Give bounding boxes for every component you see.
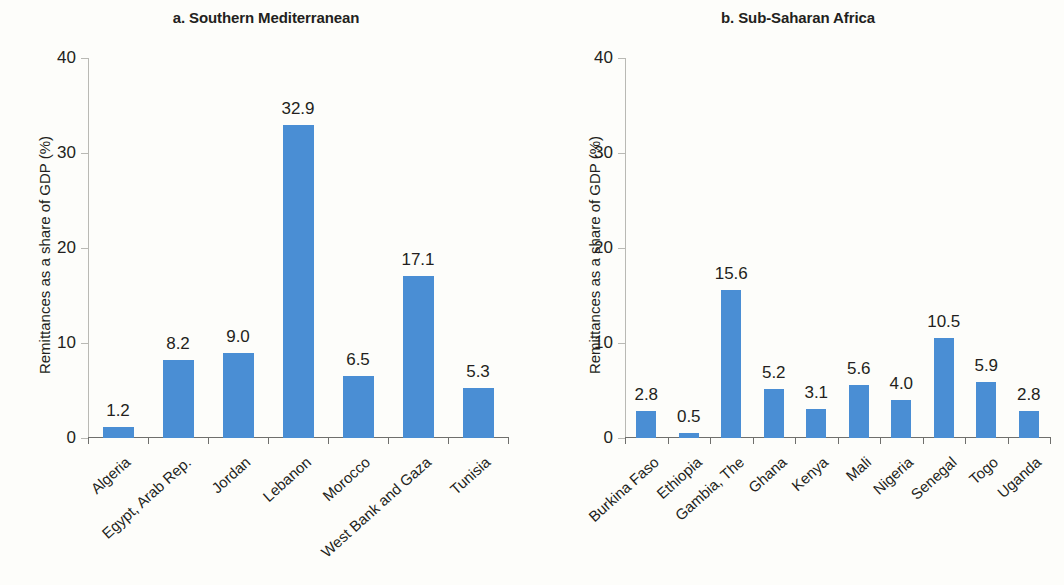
chart-panel-southern-mediterranean: a. Southern Mediterranean Remittances as… [0, 0, 532, 585]
x-axis-tick [208, 438, 209, 444]
x-axis-tick [880, 438, 881, 444]
y-axis-tick [618, 343, 625, 344]
x-axis-tick [328, 438, 329, 444]
x-axis-tick [148, 438, 149, 444]
bar[interactable] [283, 125, 314, 438]
bar-value-label: 9.0 [226, 327, 250, 347]
y-axis-tick [618, 438, 625, 439]
x-axis-category-label: Morocco [320, 454, 373, 504]
bar-value-label: 3.1 [804, 383, 828, 403]
x-axis-tick [710, 438, 711, 444]
bar-value-label: 32.9 [281, 99, 314, 119]
x-axis-category-label: Senegal [908, 454, 959, 502]
panel-a-title: a. Southern Mediterranean [0, 9, 532, 26]
bar[interactable] [1019, 411, 1039, 438]
bar[interactable] [403, 276, 434, 438]
y-axis-tick [618, 58, 625, 59]
figure-remittances-share-of-gdp: a. Southern Mediterranean Remittances as… [0, 0, 1064, 585]
x-axis-tick [625, 438, 626, 444]
x-axis-category-label: Uganda [994, 454, 1043, 500]
bar-value-label: 0.5 [677, 407, 701, 427]
bar-value-label: 2.8 [634, 385, 658, 405]
y-axis-tick [618, 248, 625, 249]
x-axis-tick [448, 438, 449, 444]
y-axis-tick-label: 30 [594, 143, 613, 163]
y-axis-tick [618, 153, 625, 154]
x-axis-tick [668, 438, 669, 444]
bar-value-label: 6.5 [346, 350, 370, 370]
bar-value-label: 8.2 [166, 334, 190, 354]
x-axis-category-label: Ghana [745, 454, 789, 495]
y-axis-tick [81, 438, 88, 439]
x-axis-tick [923, 438, 924, 444]
x-axis-category-label: Lebanon [260, 454, 313, 504]
bar[interactable] [891, 400, 911, 438]
panel-b-title: b. Sub-Saharan Africa [532, 9, 1064, 26]
y-axis-tick-label: 20 [57, 238, 76, 258]
x-axis-tick [838, 438, 839, 444]
y-axis-tick [81, 343, 88, 344]
x-axis-tick [1008, 438, 1009, 444]
bar-value-label: 17.1 [401, 250, 434, 270]
x-axis-tick [508, 438, 509, 444]
y-axis-tick-label: 10 [57, 333, 76, 353]
x-axis-category-label: Algeria [88, 454, 133, 496]
x-axis-category-label: West Bank and Gaza [318, 454, 433, 560]
x-axis-tick [1050, 438, 1051, 444]
bar[interactable] [849, 385, 869, 438]
bar-value-label: 5.2 [762, 363, 786, 383]
bar[interactable] [976, 382, 996, 438]
x-axis-tick [268, 438, 269, 444]
x-axis-category-label: Burkina Faso [586, 454, 662, 524]
y-axis-tick-label: 10 [594, 333, 613, 353]
x-axis-category-label: Kenya [789, 454, 831, 494]
bar-value-label: 5.9 [974, 356, 998, 376]
bar[interactable] [721, 290, 741, 438]
x-axis-tick [965, 438, 966, 444]
y-axis-tick [81, 248, 88, 249]
x-axis-category-label: Togo [967, 454, 1001, 487]
panel-a-y-axis-line [88, 58, 89, 438]
y-axis-tick-label: 40 [594, 48, 613, 68]
x-axis-category-label: Mali [843, 454, 873, 484]
bar-value-label: 2.8 [1017, 385, 1041, 405]
x-axis-category-label: Tunisia [447, 454, 493, 497]
panel-b-y-axis-line [625, 58, 626, 438]
bar-value-label: 10.5 [927, 312, 960, 332]
bar-value-label: 5.6 [847, 359, 871, 379]
x-axis-tick [388, 438, 389, 444]
bar[interactable] [636, 411, 656, 438]
bar[interactable] [806, 409, 826, 438]
panel-a-plot-area: 0102030401.28.29.032.96.517.15.3 [88, 58, 508, 438]
y-axis-tick-label: 20 [594, 238, 613, 258]
y-axis-tick [81, 153, 88, 154]
bar-value-label: 5.3 [466, 362, 490, 382]
x-axis-category-label: Jordan [209, 454, 253, 496]
bar-value-label: 1.2 [106, 401, 130, 421]
bar[interactable] [679, 433, 699, 438]
y-axis-tick-label: 0 [604, 428, 613, 448]
y-axis-tick-label: 0 [67, 428, 76, 448]
chart-panel-sub-saharan-africa: b. Sub-Saharan Africa Remittances as a s… [532, 0, 1064, 585]
x-axis-tick [88, 438, 89, 444]
bar-value-label: 4.0 [889, 374, 913, 394]
y-axis-tick [81, 58, 88, 59]
bar[interactable] [103, 427, 134, 438]
panel-a-y-axis-label: Remittances as a share of GDP (%) [32, 60, 58, 450]
panel-b-plot-area: 0102030402.80.515.65.23.15.64.010.55.92.… [625, 58, 1050, 438]
y-axis-tick-label: 30 [57, 143, 76, 163]
bar-value-label: 15.6 [715, 264, 748, 284]
x-axis-tick [753, 438, 754, 444]
x-axis-tick [795, 438, 796, 444]
bar[interactable] [223, 353, 254, 439]
bar[interactable] [463, 388, 494, 438]
bar[interactable] [764, 389, 784, 438]
y-axis-tick-label: 40 [57, 48, 76, 68]
bar[interactable] [934, 338, 954, 438]
bar[interactable] [163, 360, 194, 438]
bar[interactable] [343, 376, 374, 438]
